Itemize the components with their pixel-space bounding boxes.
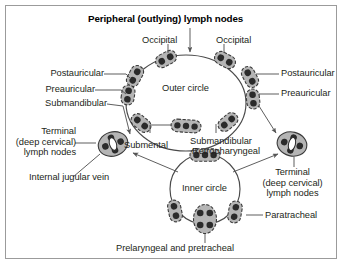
label-retropharyngeal: Retropharyngeal — [192, 146, 260, 157]
label-occipital-right: Occipital — [216, 35, 251, 46]
label-inner-circle: Inner circle — [182, 183, 227, 194]
label-submandibular-left: Submandibular — [8, 98, 107, 109]
label-postauricular-right: Postauricular — [281, 68, 335, 79]
label-internal-jugular-vein: Internal jugular vein — [29, 172, 109, 183]
label-preauricular-right: Preauricular — [281, 88, 331, 99]
label-submandibular-center: Submandibular — [190, 136, 252, 147]
node-paratracheal-right — [227, 200, 244, 224]
label-terminal-right: Terminal (deep cervical) lymph nodes — [244, 167, 341, 199]
node-preauricular-right — [245, 88, 260, 109]
label-terminal-left: Terminal (deep cervical) lymph nodes — [6, 126, 76, 158]
label-terminal-right-line2: (deep cervical) — [262, 178, 322, 188]
label-prelaryngeal-pretracheal: Prelaryngeal and pretracheal — [116, 243, 234, 254]
node-occipital-left — [153, 48, 179, 70]
label-terminal-left-line2: (deep cervical) — [16, 137, 76, 147]
label-terminal-right-line3: lymph nodes — [266, 188, 318, 198]
label-preauricular-left: Preauricular — [14, 84, 95, 95]
node-preauricular-left — [120, 84, 136, 106]
node-paratracheal-left — [166, 199, 183, 223]
label-terminal-left-line1: Terminal — [41, 126, 76, 136]
node-prelaryngeal-pretracheal — [194, 205, 217, 234]
label-outer-circle: Outer circle — [162, 83, 209, 94]
label-postauricular-left: Postauricular — [14, 68, 104, 79]
label-terminal-right-line1: Terminal — [275, 167, 310, 177]
label-submental: Submental — [124, 140, 168, 151]
node-submandibular-right — [215, 110, 240, 134]
node-occipital-right — [212, 49, 238, 71]
node-terminal-right — [275, 129, 310, 160]
label-terminal-left-line3: lymph nodes — [24, 147, 76, 157]
node-submental-center — [171, 119, 202, 134]
label-occipital-left: Occipital — [142, 35, 177, 46]
label-paratracheal: Paratracheal — [265, 210, 317, 221]
figure-title: Peripheral (outlying) lymph nodes — [88, 13, 243, 24]
lymph-node-diagram-figure: Peripheral (outlying) lymph nodes Occipi… — [0, 0, 344, 268]
